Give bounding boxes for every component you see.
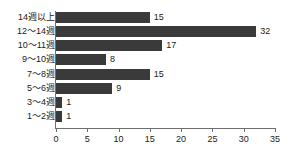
bar: [56, 111, 62, 122]
category-label: 3～4週: [0, 97, 55, 108]
x-axis-tick: [56, 129, 57, 132]
bar-value-label: 17: [166, 39, 176, 51]
bar-value-label: 15: [154, 11, 164, 23]
bar-value-label: 9: [116, 82, 121, 94]
bar: [56, 83, 112, 94]
plot-area: 15 32 17 8 15 9 1 1: [56, 12, 275, 128]
x-axis-tick-label: 10: [104, 134, 134, 145]
x-axis-tick-label: 35: [260, 134, 290, 145]
x-axis-tick: [275, 129, 276, 132]
category-label: 1～2週: [0, 111, 55, 122]
bar-value-label: 8: [110, 53, 115, 65]
bar-value-label: 15: [154, 68, 164, 80]
bar: [56, 26, 256, 37]
bar-chart: 14週以上 12～14週 10～11週 9～10週 7～8週 5～6週 3～4週…: [0, 0, 290, 151]
x-axis-tick: [119, 129, 120, 132]
x-axis-tick: [87, 129, 88, 132]
category-label: 9～10週: [0, 54, 55, 65]
bar: [56, 54, 106, 65]
x-axis-tick-label: 30: [229, 134, 259, 145]
category-label: 10～11週: [0, 40, 55, 51]
bar: [56, 97, 62, 108]
category-label: 5～6週: [0, 83, 55, 94]
category-label: 12～14週: [0, 26, 55, 37]
x-axis-tick-label: 5: [72, 134, 102, 145]
x-axis-tick: [212, 129, 213, 132]
bar: [56, 40, 162, 51]
bar-value-label: 32: [260, 25, 270, 37]
y-axis-line: [55, 11, 56, 129]
bar: [56, 69, 150, 80]
category-label: 7～8週: [0, 69, 55, 80]
category-label: 14週以上: [0, 12, 55, 23]
x-axis-tick: [150, 129, 151, 132]
x-axis-tick-label: 20: [166, 134, 196, 145]
bar-value-label: 1: [66, 96, 71, 108]
x-axis-tick-label: 0: [41, 134, 71, 145]
x-axis-tick-label: 15: [135, 134, 165, 145]
x-axis-tick: [181, 129, 182, 132]
x-axis-tick: [244, 129, 245, 132]
bar: [56, 12, 150, 23]
bar-value-label: 1: [66, 110, 71, 122]
x-axis-tick-label: 25: [197, 134, 227, 145]
